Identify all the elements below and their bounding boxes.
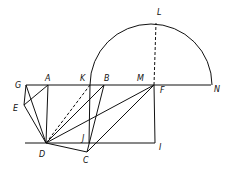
label-F: F <box>160 86 165 95</box>
label-E: E <box>13 104 19 113</box>
segment-FI <box>154 85 155 143</box>
segment-EA <box>24 85 48 105</box>
label-M: M <box>137 74 144 83</box>
label-B: B <box>104 74 110 83</box>
segment-GE <box>24 85 26 105</box>
point-labels: LGAKBMFNEJDCI <box>13 8 220 165</box>
label-J: J <box>80 134 85 143</box>
segment-KJ <box>89 85 90 143</box>
dashed-segment-FL <box>154 23 156 85</box>
label-K: K <box>80 74 86 83</box>
diagram-svg: LGAKBMFNEJDCI <box>0 0 232 172</box>
label-A: A <box>44 74 50 83</box>
segment-DF <box>46 85 154 143</box>
segment-DC <box>46 143 87 152</box>
segment-CF <box>87 85 154 152</box>
label-N: N <box>214 85 220 94</box>
label-L: L <box>157 8 161 17</box>
label-C: C <box>83 156 89 165</box>
segment-AD <box>46 85 48 143</box>
label-I: I <box>159 143 162 152</box>
label-D: D <box>39 150 45 159</box>
segment-DB <box>46 85 104 143</box>
label-G: G <box>15 81 21 90</box>
solid-lines <box>24 85 211 152</box>
dashed-lines <box>46 23 156 143</box>
geometry-diagram: LGAKBMFNEJDCI <box>0 0 232 172</box>
